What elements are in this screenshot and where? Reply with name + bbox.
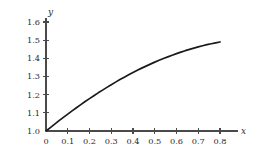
x-axis-tick-labels: 00.10.20.30.40.50.60.70.8: [43, 136, 226, 146]
x-axis-label: x: [241, 126, 246, 136]
y-tick-label: 1.2: [27, 90, 40, 100]
y-axis-label: y: [47, 7, 54, 17]
data-series-curve: [46, 42, 220, 131]
x-tick-label: 0.5: [148, 136, 161, 146]
y-tick-label: 1.6: [27, 17, 40, 27]
y-tick-label: 1.4: [27, 53, 40, 63]
y-tick-label: 1.0: [27, 126, 40, 136]
x-tick-label: 0.6: [170, 136, 183, 146]
y-axis-tick-labels: 1.01.11.21.31.41.51.6: [27, 17, 40, 136]
x-tick-label: 0.2: [83, 136, 96, 146]
x-tick-label: 0.3: [105, 136, 118, 146]
x-tick-label: 0.8: [213, 136, 226, 146]
y-tick-label: 1.5: [27, 35, 40, 45]
x-tick-label: 0.7: [192, 136, 205, 146]
plot-canvas: 00.10.20.30.40.50.60.70.8 1.01.11.21.31.…: [0, 0, 258, 158]
x-tick-label: 0.4: [126, 136, 139, 146]
chart-figure: 00.10.20.30.40.50.60.70.8 1.01.11.21.31.…: [0, 0, 258, 158]
y-tick-label: 1.1: [27, 108, 40, 118]
x-tick-label: 0.1: [61, 136, 74, 146]
y-tick-label: 1.3: [27, 71, 40, 81]
axes-group: [46, 18, 239, 131]
x-tick-label: 0: [43, 136, 48, 146]
